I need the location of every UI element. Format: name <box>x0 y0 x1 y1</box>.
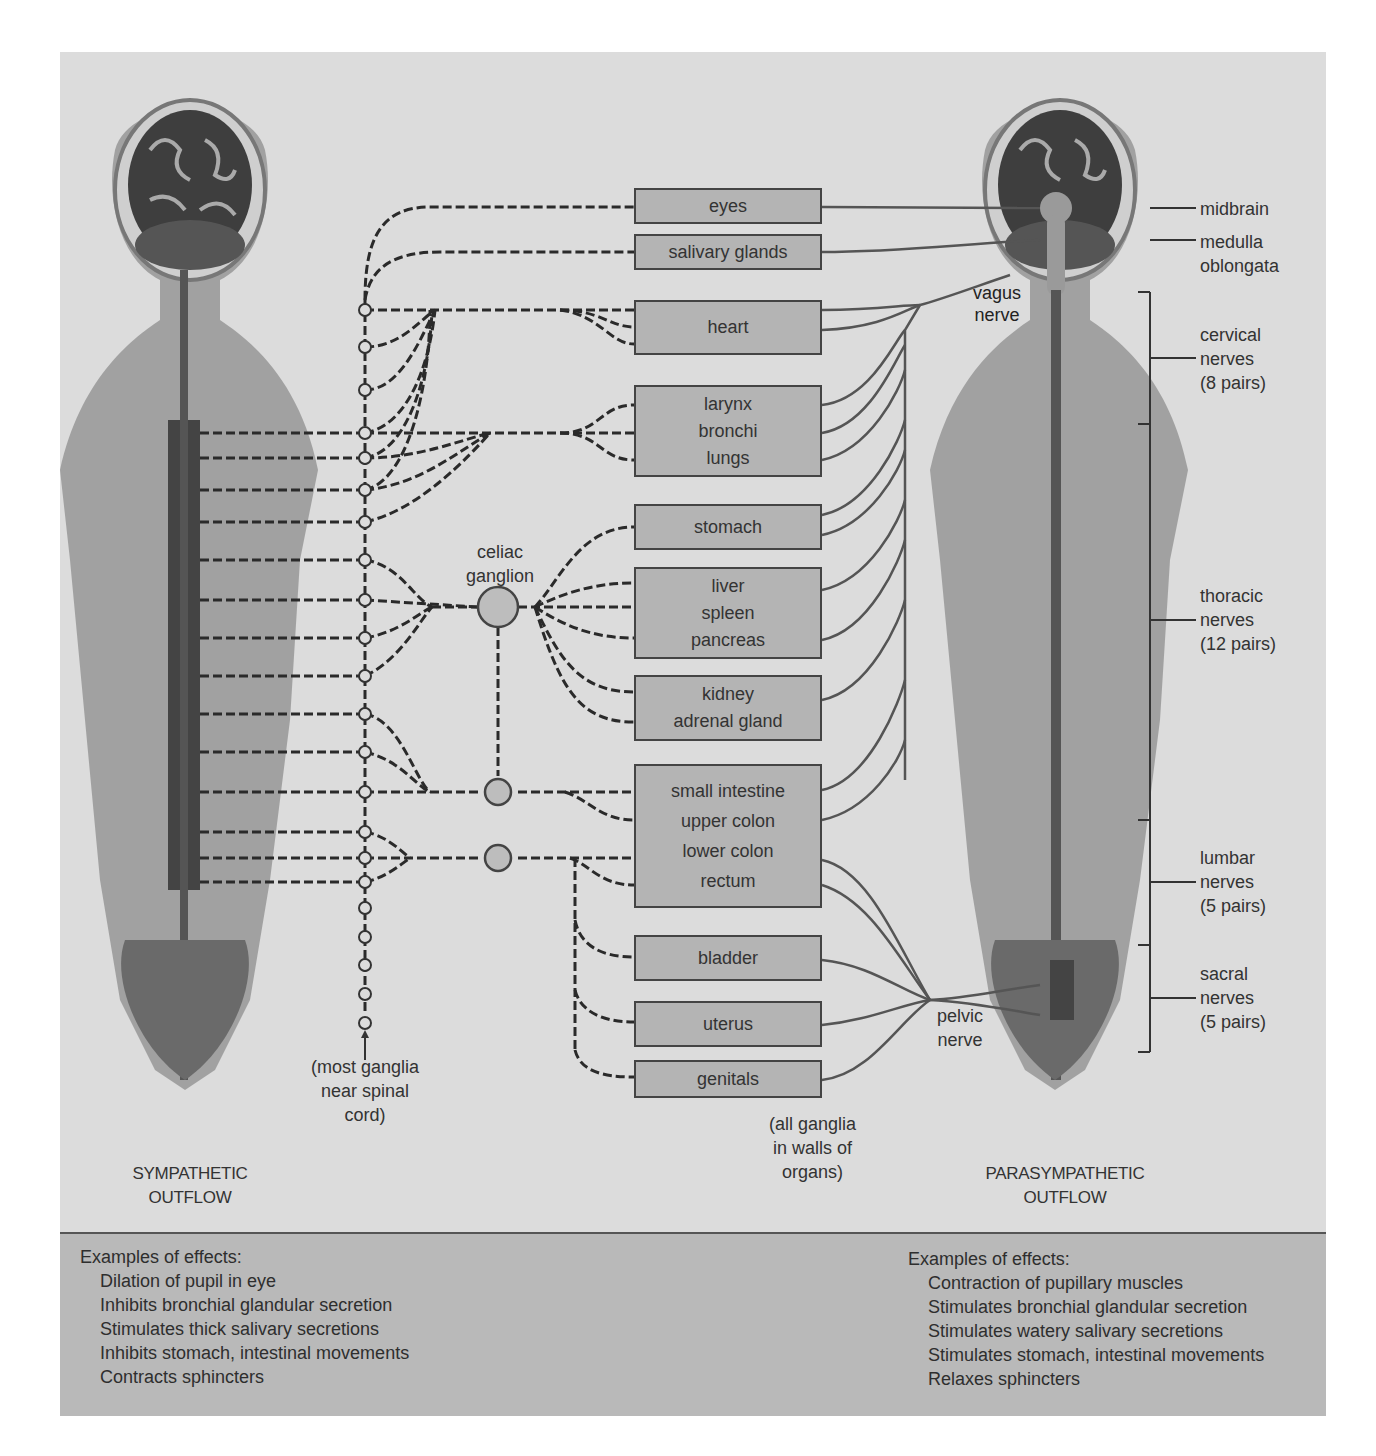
sympathetic-body-figure <box>60 100 318 1090</box>
organ-box-heart: heart <box>634 300 822 355</box>
effect-item: Relaxes sphincters <box>908 1367 1264 1391</box>
effects-heading: Examples of effects: <box>80 1245 409 1269</box>
organ-label: pancreas <box>691 627 765 654</box>
organ-label: eyes <box>709 193 747 220</box>
parasympathetic-effects: Examples of effects: Contraction of pupi… <box>908 1247 1264 1391</box>
effect-item: Stimulates bronchial glandular secretion <box>908 1295 1264 1319</box>
most-ganglia-label: (most ganglianear spinalcord) <box>295 1055 435 1127</box>
organ-box-bladder: bladder <box>634 935 822 981</box>
sacral-nerves-label: sacralnerves(5 pairs) <box>1200 962 1266 1034</box>
effect-item: Inhibits bronchial glandular secretion <box>80 1293 409 1317</box>
organ-label: upper colon <box>681 806 775 836</box>
organ-label: uterus <box>703 1011 753 1038</box>
sympathetic-effects: Examples of effects: Dilation of pupil i… <box>80 1245 409 1389</box>
lumbar-nerves-label: lumbarnerves(5 pairs) <box>1200 846 1266 918</box>
effect-item: Stimulates stomach, intestinal movements <box>908 1343 1264 1367</box>
midbrain-label: midbrain <box>1200 197 1269 221</box>
thoracic-nerves-label: thoracicnerves(12 pairs) <box>1200 584 1276 656</box>
organ-box-eyes: eyes <box>634 188 822 224</box>
organ-label: kidney <box>702 681 754 708</box>
organ-box-salivary-glands: salivary glands <box>634 234 822 270</box>
effect-item: Inhibits stomach, intestinal movements <box>80 1341 409 1365</box>
effect-item: Stimulates thick salivary secretions <box>80 1317 409 1341</box>
pelvic-nerve-label: pelvicnerve <box>925 1004 995 1052</box>
cervical-nerves-label: cervicalnerves(8 pairs) <box>1200 323 1266 395</box>
organ-label: larynx <box>704 391 752 418</box>
organ-label: salivary glands <box>668 239 787 266</box>
medulla-oblongata-label: medullaoblongata <box>1200 230 1279 278</box>
organ-box-intestine-colon: small intestine upper colon lower colon … <box>634 764 822 908</box>
vagus-nerve-label: vagusnerve <box>962 282 1032 326</box>
organ-box-genitals: genitals <box>634 1060 822 1098</box>
effect-item: Dilation of pupil in eye <box>80 1269 409 1293</box>
organ-label: rectum <box>700 866 755 896</box>
organ-label: heart <box>707 314 748 341</box>
effect-item: Stimulates watery salivary secretions <box>908 1319 1264 1343</box>
celiac-ganglion-label: celiacganglion <box>455 540 545 588</box>
effects-heading: Examples of effects: <box>908 1247 1264 1271</box>
organ-box-lungs: larynx bronchi lungs <box>634 385 822 477</box>
organ-box-uterus: uterus <box>634 1001 822 1047</box>
celiac-ganglion <box>478 587 518 627</box>
organ-box-kidney-adrenal: kidney adrenal gland <box>634 675 822 741</box>
effect-item: Contraction of pupillary muscles <box>908 1271 1264 1295</box>
sympathetic-outflow-title: SYMPATHETICOUTFLOW <box>100 1162 280 1210</box>
organ-label: lungs <box>706 445 749 472</box>
organ-label: bronchi <box>698 418 757 445</box>
organ-label: adrenal gland <box>673 708 782 735</box>
parasympathetic-outflow-title: PARASYMPATHETICOUTFLOW <box>965 1162 1165 1210</box>
organ-label: genitals <box>697 1066 759 1093</box>
organ-label: bladder <box>698 945 758 972</box>
effect-item: Contracts sphincters <box>80 1365 409 1389</box>
all-ganglia-label: (all gangliain walls oforgans) <box>750 1112 875 1184</box>
organ-box-stomach: stomach <box>634 504 822 550</box>
organ-label: spleen <box>701 600 754 627</box>
organ-label: lower colon <box>682 836 773 866</box>
organ-label: stomach <box>694 514 762 541</box>
organ-box-liver-spleen-pancreas: liver spleen pancreas <box>634 567 822 659</box>
organ-label: small intestine <box>671 776 785 806</box>
organ-label: liver <box>711 573 744 600</box>
